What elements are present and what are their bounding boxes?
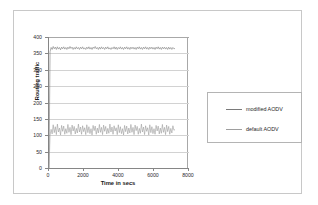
y-tick-label: 100 [12, 132, 42, 138]
x-tick-mark [153, 168, 154, 171]
x-tick-label: 2000 [63, 172, 103, 178]
y-tick-label: 350 [12, 50, 42, 56]
y-tick-label: 0 [12, 165, 42, 171]
y-tick-label: 400 [12, 34, 42, 40]
y-tick-label: 150 [12, 116, 42, 122]
x-tick-label: 6000 [133, 172, 173, 178]
x-tick-label: 4000 [98, 172, 138, 178]
series-line-modified-aodv [49, 47, 175, 169]
y-tick-label: 200 [12, 100, 42, 106]
legend-label-default-aodv: default AODV [246, 126, 279, 132]
x-tick-mark [188, 168, 189, 171]
series-line-default-aodv [49, 124, 175, 168]
legend-item-modified-aodv: modified AODV [208, 104, 303, 114]
legend-item-default-aodv: default AODV [208, 124, 303, 134]
x-tick-mark [83, 168, 84, 171]
chart-legend: modified AODV default AODV [207, 92, 302, 143]
legend-label-modified-aodv: modified AODV [246, 106, 283, 112]
x-tick-mark [48, 168, 49, 171]
plot-area [48, 37, 188, 168]
legend-swatch-default-aodv [226, 129, 242, 130]
y-tick-label: 50 [12, 149, 42, 155]
x-tick-mark [118, 168, 119, 171]
x-tick-label: 0 [28, 172, 68, 178]
legend-swatch-modified-aodv [226, 109, 242, 110]
chart-figure: Routing traffic 050100150200250300350400… [0, 0, 318, 205]
series-layer [49, 37, 189, 168]
gridline [49, 168, 189, 169]
x-axis-title: Time in secs [48, 180, 188, 186]
x-tick-label: 8000 [168, 172, 208, 178]
y-tick-label: 300 [12, 67, 42, 73]
y-tick-label: 250 [12, 83, 42, 89]
